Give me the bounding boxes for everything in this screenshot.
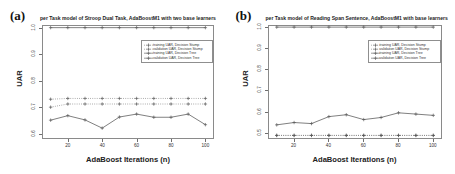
plus-marker bbox=[327, 134, 330, 137]
legend-item: validation UAR, Decision Tree bbox=[144, 56, 210, 60]
y-tick-label: 0.6 bbox=[256, 105, 261, 117]
plus-marker bbox=[204, 123, 207, 126]
plus-marker bbox=[135, 97, 138, 100]
plus-marker bbox=[431, 25, 434, 28]
panel-b: (b) per Task model of Reading Span Sente… bbox=[228, 0, 455, 174]
plus-marker bbox=[327, 115, 330, 118]
x-tick-label: 20 bbox=[286, 143, 302, 148]
plus-marker bbox=[292, 134, 295, 137]
plus-marker bbox=[414, 134, 417, 137]
plus-marker bbox=[83, 118, 86, 121]
plus-marker bbox=[152, 97, 155, 100]
plus-marker bbox=[309, 122, 312, 125]
plus-marker bbox=[101, 97, 104, 100]
x-tick-mark bbox=[398, 139, 399, 142]
plus-marker bbox=[101, 26, 104, 29]
plus-marker bbox=[187, 102, 190, 105]
y-tick-mark bbox=[265, 27, 268, 28]
plus-marker bbox=[431, 134, 434, 137]
series-line-0 bbox=[51, 98, 206, 99]
plus-marker bbox=[344, 113, 347, 116]
plus-marker bbox=[327, 25, 330, 28]
y-tick-label: 0.5 bbox=[256, 126, 261, 138]
x-tick-mark bbox=[205, 139, 206, 142]
series-line-3 bbox=[276, 113, 433, 125]
x-tick-mark bbox=[433, 139, 434, 142]
plus-marker bbox=[362, 134, 365, 137]
x-tick-label: 40 bbox=[320, 143, 336, 148]
plus-marker bbox=[135, 26, 138, 29]
x-tick-label: 100 bbox=[197, 143, 213, 148]
series-line-3 bbox=[51, 114, 206, 128]
plus-marker bbox=[414, 112, 417, 115]
plus-marker bbox=[204, 26, 207, 29]
y-tick-mark bbox=[39, 134, 42, 135]
legend-label: validation UAR, Decision Tree bbox=[380, 56, 427, 60]
plus-marker bbox=[431, 114, 434, 117]
y-tick-label: 1.0 bbox=[256, 21, 261, 33]
y-tick-mark bbox=[265, 48, 268, 49]
plus-marker bbox=[292, 25, 295, 28]
plus-marker bbox=[66, 114, 69, 117]
x-tick-label: 20 bbox=[60, 143, 76, 148]
panel-b-data-layer bbox=[228, 0, 455, 174]
panel-a: (a) per Task model of Stroop Dual Task, … bbox=[0, 0, 228, 174]
plus-marker bbox=[49, 26, 52, 29]
x-tick-label: 80 bbox=[390, 143, 406, 148]
plus-marker bbox=[169, 116, 172, 119]
y-tick-mark bbox=[265, 90, 268, 91]
y-tick-mark bbox=[39, 28, 42, 29]
plus-marker bbox=[204, 97, 207, 100]
plus-marker bbox=[187, 97, 190, 100]
plus-marker bbox=[49, 118, 52, 121]
plus-marker bbox=[275, 134, 278, 137]
plus-marker bbox=[66, 102, 69, 105]
plus-marker bbox=[379, 134, 382, 137]
plus-marker bbox=[83, 26, 86, 29]
plus-marker bbox=[309, 134, 312, 137]
plus-marker bbox=[118, 102, 121, 105]
plus-marker bbox=[379, 25, 382, 28]
legend-label: validation UAR, Decision Tree bbox=[153, 56, 200, 60]
x-tick-label: 80 bbox=[163, 143, 179, 148]
y-tick-label: 0.9 bbox=[256, 42, 261, 54]
x-tick-label: 100 bbox=[425, 143, 441, 148]
plus-marker bbox=[362, 118, 365, 121]
x-tick-mark bbox=[328, 139, 329, 142]
plus-marker bbox=[49, 98, 52, 101]
plus-marker bbox=[275, 25, 278, 28]
plus-marker bbox=[396, 25, 399, 28]
y-tick-mark bbox=[39, 81, 42, 82]
series-line-1 bbox=[51, 104, 206, 107]
y-tick-mark bbox=[39, 54, 42, 55]
plus-marker bbox=[414, 25, 417, 28]
y-tick-label: 0.8 bbox=[256, 63, 261, 75]
y-tick-label: 0.7 bbox=[31, 101, 36, 113]
x-tick-mark bbox=[363, 139, 364, 142]
y-tick-label: 0.8 bbox=[31, 74, 36, 86]
panel-b-legend: training UAR, Decision Stumpvalidation U… bbox=[368, 40, 441, 63]
plus-marker bbox=[152, 26, 155, 29]
plus-marker bbox=[379, 116, 382, 119]
plus-marker bbox=[275, 123, 278, 126]
panel-a-y-axis-label: UAR bbox=[15, 59, 24, 99]
plus-marker bbox=[169, 26, 172, 29]
panel-b-x-axis-label: AdaBoost Iterations (n) bbox=[268, 155, 442, 164]
plus-marker bbox=[83, 102, 86, 105]
y-tick-mark bbox=[265, 69, 268, 70]
plus-marker bbox=[204, 102, 207, 105]
y-tick-label: 0.9 bbox=[31, 48, 36, 60]
plus-marker bbox=[152, 102, 155, 105]
plus-marker bbox=[135, 112, 138, 115]
plus-marker bbox=[152, 116, 155, 119]
plus-marker bbox=[362, 25, 365, 28]
x-tick-mark bbox=[137, 139, 138, 142]
plus-marker bbox=[118, 97, 121, 100]
figure-two-panel-line-charts: (a) per Task model of Stroop Dual Task, … bbox=[0, 0, 455, 174]
legend-item: validation UAR, Decision Tree bbox=[371, 56, 438, 60]
plus-marker bbox=[66, 97, 69, 100]
x-tick-mark bbox=[102, 139, 103, 142]
x-tick-label: 60 bbox=[129, 143, 145, 148]
plus-marker bbox=[135, 102, 138, 105]
plus-marker bbox=[83, 97, 86, 100]
